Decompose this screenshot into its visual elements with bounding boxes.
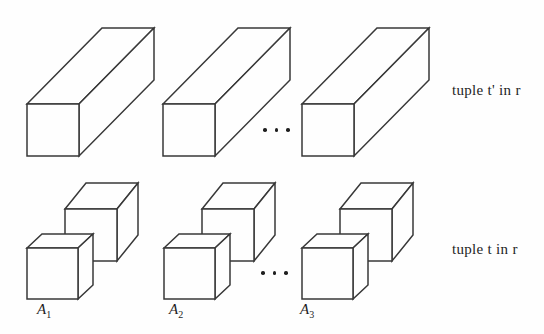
- attribute-a2-subscript: 2: [178, 309, 183, 320]
- cube-pair-3-front-cube-front-face: [302, 248, 353, 299]
- attribute-label-a1: A1: [37, 302, 51, 320]
- box-shapes-canvas: [0, 0, 544, 334]
- ellipsis-dot: [286, 128, 290, 132]
- ellipsis-dot: [275, 128, 279, 132]
- attribute-a1-subscript: 1: [46, 309, 51, 320]
- ellipsis-dot: [273, 271, 277, 275]
- top-row-label: tuple t' in r: [452, 82, 521, 98]
- tuple-boxes-diagram: tuple t' in r tuple t in r A1 A2 A3: [0, 0, 544, 334]
- ellipsis-dot: [263, 128, 267, 132]
- tuple-t-prime-box-3-front-face: [302, 104, 354, 156]
- attribute-a1-base: A: [37, 301, 46, 317]
- bottom-row-ellipsis: [261, 271, 288, 275]
- attribute-a3-base: A: [300, 301, 309, 317]
- attribute-a2-base: A: [169, 301, 178, 317]
- attribute-label-a2: A2: [169, 302, 183, 320]
- attribute-label-a3: A3: [300, 302, 314, 320]
- top-row-ellipsis: [263, 128, 290, 132]
- bottom-row-label: tuple t in r: [452, 241, 518, 257]
- cube-pair-1-front-cube-front-face: [27, 248, 78, 299]
- cube-pair-2-front-cube-front-face: [164, 248, 215, 299]
- tuple-t-prime-box-1-front-face: [27, 104, 79, 156]
- tuple-t-prime-box-2-front-face: [163, 104, 215, 156]
- attribute-a3-subscript: 3: [309, 309, 314, 320]
- ellipsis-dot: [284, 271, 288, 275]
- ellipsis-dot: [261, 271, 265, 275]
